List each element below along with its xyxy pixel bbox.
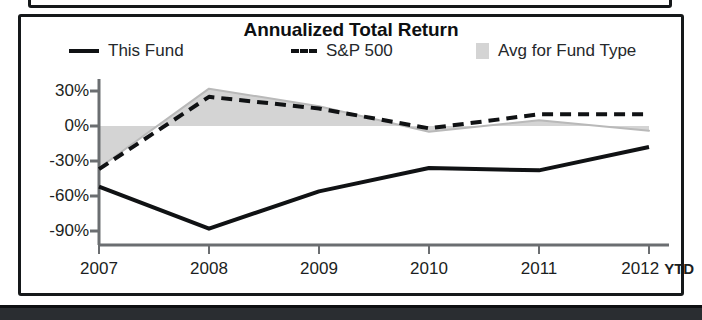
x-axis-tick-label: 2012YTD <box>621 259 694 279</box>
x-axis-ytd-suffix: YTD <box>664 260 694 277</box>
x-axis-tick-label: 2010 <box>410 259 448 279</box>
scan-fragment-top-box <box>28 0 672 8</box>
annualized-total-return-chart-panel: Annualized Total Return This Fund S&P 50… <box>18 14 684 296</box>
x-axis-tick-label: 2007 <box>80 259 118 279</box>
x-axis-labels: 200720082009201020112012YTD <box>21 17 687 299</box>
x-axis-tick-label: 2011 <box>521 259 558 279</box>
x-axis-tick-label: 2008 <box>190 259 228 279</box>
x-axis-tick-label: 2009 <box>300 259 338 279</box>
scan-fragment-bottom-band <box>0 305 702 320</box>
